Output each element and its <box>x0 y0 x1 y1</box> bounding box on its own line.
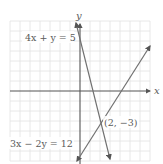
line-3x-minus-2y-eq-12 <box>77 46 150 161</box>
x-axis-label: x <box>154 85 160 96</box>
intersection-label: (2, −3) <box>104 117 138 128</box>
y-axis-label: y <box>75 10 82 21</box>
line-1-label: 4x + y = 5 <box>25 32 76 43</box>
line-2-label: 3x − 2y = 12 <box>10 138 73 149</box>
coordinate-graph: x y 4x + y = 5 3x − 2y = 12 (2, −3) <box>0 0 163 164</box>
